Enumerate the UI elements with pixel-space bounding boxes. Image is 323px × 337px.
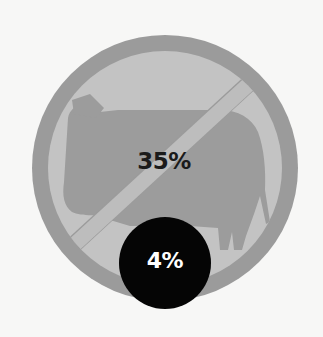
small-percent-label: 4% [125, 248, 205, 273]
big-percent-label: 35% [124, 148, 204, 174]
chart-figure: 35% 4% [0, 0, 323, 337]
